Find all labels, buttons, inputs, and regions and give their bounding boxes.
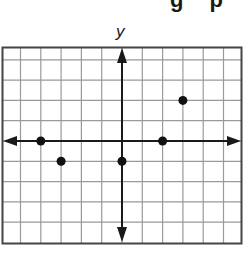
plotted-point xyxy=(158,137,167,146)
coordinate-grid xyxy=(0,0,248,260)
plotted-point xyxy=(36,137,45,146)
plotted-points xyxy=(36,96,187,166)
axes xyxy=(3,48,241,242)
plotted-point xyxy=(57,157,66,166)
y-axis-down-arrow-icon xyxy=(117,227,127,242)
x-axis-left-arrow-icon xyxy=(3,136,17,146)
plotted-point xyxy=(178,96,187,105)
x-axis-right-arrow-icon xyxy=(227,136,241,146)
plotted-point xyxy=(118,157,127,166)
y-axis-up-arrow-icon xyxy=(117,48,127,63)
